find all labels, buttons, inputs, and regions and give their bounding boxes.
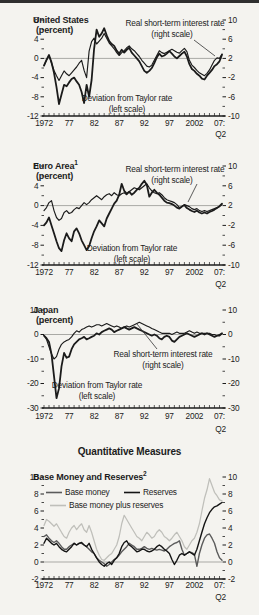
svg-text:82: 82 — [90, 580, 99, 590]
svg-text:8: 8 — [34, 489, 39, 499]
svg-text:97: 97 — [165, 411, 174, 421]
chart-euro-real-rate-label-line1: Real short-term interest rate — [126, 165, 225, 173]
svg-text:-2: -2 — [228, 220, 236, 230]
svg-text:6: 6 — [34, 506, 39, 516]
svg-text:8: 8 — [228, 489, 233, 499]
section-heading: Quantitative Measures — [0, 447, 259, 457]
svg-text:2: 2 — [34, 540, 39, 550]
svg-text:-4: -4 — [32, 72, 40, 82]
chart-japan-units-label: (percent) — [36, 316, 73, 325]
svg-text:4: 4 — [34, 181, 39, 191]
chart-japan-title: Japan — [33, 304, 58, 315]
svg-text:0: 0 — [34, 53, 39, 63]
svg-text:4: 4 — [34, 523, 39, 533]
svg-text:Q2: Q2 — [215, 129, 226, 139]
chart-us-deviation-label-line2: (left scale) — [109, 105, 145, 113]
svg-text:87: 87 — [115, 267, 124, 277]
chart-base-money-title-sup: 2 — [143, 470, 146, 477]
svg-text:-6: -6 — [228, 92, 236, 102]
chart-japan-real-rate-label-line1: Real short-term interest rate — [114, 350, 213, 358]
chart-base-money-title-text: Base Money and Reserves — [33, 472, 143, 482]
chart-euro-title: Euro Area1 — [33, 160, 78, 171]
svg-text:2: 2 — [228, 200, 233, 210]
svg-text:-20: -20 — [228, 378, 240, 388]
svg-text:1972: 1972 — [35, 411, 53, 421]
svg-text:87: 87 — [115, 411, 124, 421]
svg-text:-8: -8 — [32, 92, 40, 102]
svg-text:6: 6 — [228, 34, 233, 44]
legend-label-base-money: Base money — [65, 488, 110, 496]
figure-panel: 840-4-8-121062-2-6-101972778287929720020… — [0, 0, 259, 615]
svg-text:07:: 07: — [214, 118, 225, 128]
chart-us-title-text: United States — [33, 15, 89, 25]
chart-japan-title-text: Japan — [33, 305, 58, 315]
svg-text:0: 0 — [34, 557, 39, 567]
svg-text:92: 92 — [140, 580, 149, 590]
chart-us-deviation-label-line1: Deviation from Taylor rate — [82, 94, 172, 102]
svg-text:-2: -2 — [228, 72, 236, 82]
svg-text:82: 82 — [90, 267, 99, 277]
svg-text:0: 0 — [228, 557, 233, 567]
svg-text:4: 4 — [228, 523, 233, 533]
chart-euro-deviation-label-line2: (left scale) — [114, 255, 150, 263]
svg-text:77: 77 — [65, 580, 74, 590]
svg-text:6: 6 — [228, 181, 233, 191]
svg-text:-10: -10 — [228, 111, 240, 121]
svg-text:10: 10 — [228, 472, 237, 482]
svg-text:-10: -10 — [228, 260, 240, 270]
chart-euro-title-text: Euro Area — [33, 161, 74, 171]
svg-text:-8: -8 — [32, 240, 40, 250]
svg-text:2: 2 — [228, 53, 233, 63]
svg-text:92: 92 — [140, 411, 149, 421]
svg-text:2002: 2002 — [186, 267, 204, 277]
svg-text:92: 92 — [140, 118, 149, 128]
svg-text:2002: 2002 — [186, 411, 204, 421]
svg-text:07:: 07: — [214, 267, 225, 277]
svg-text:77: 77 — [65, 267, 74, 277]
svg-text:82: 82 — [90, 411, 99, 421]
svg-text:-4: -4 — [32, 220, 40, 230]
svg-text:6: 6 — [228, 506, 233, 516]
legend-label-reserves: Reserves — [143, 488, 177, 496]
svg-text:07:: 07: — [214, 411, 225, 421]
svg-text:4: 4 — [34, 34, 39, 44]
svg-text:1972: 1972 — [35, 118, 53, 128]
svg-text:0: 0 — [34, 200, 39, 210]
svg-text:2002: 2002 — [186, 118, 204, 128]
svg-text:82: 82 — [90, 118, 99, 128]
chart-japan-deviation-label-line1: Deviation from Taylor rate — [52, 381, 142, 389]
svg-text:1972: 1972 — [35, 267, 53, 277]
svg-text:77: 77 — [65, 118, 74, 128]
svg-text:1972: 1972 — [35, 580, 53, 590]
svg-text:10: 10 — [228, 15, 237, 25]
svg-text:97: 97 — [165, 267, 174, 277]
svg-text:10: 10 — [228, 161, 237, 171]
chart-japan-real-rate-label-line2: (right scale) — [142, 361, 183, 369]
chart-us-units-label: (percent) — [36, 26, 73, 35]
svg-text:97: 97 — [165, 118, 174, 128]
svg-text:87: 87 — [115, 580, 124, 590]
svg-text:Q2: Q2 — [215, 424, 226, 434]
svg-text:77: 77 — [65, 411, 74, 421]
chart-euro-deviation-label-line1: Deviation from Taylor rate — [87, 244, 177, 252]
chart-japan-deviation-label-line2: (left scale) — [79, 392, 115, 400]
chart-euro-units-label: (percent) — [36, 172, 73, 181]
svg-text:-10: -10 — [27, 354, 39, 364]
svg-text:0: 0 — [228, 329, 233, 339]
svg-text:Q2: Q2 — [215, 592, 226, 602]
chart-us-real-rate-label-line2: (right scale) — [151, 30, 192, 38]
svg-text:07:: 07: — [214, 580, 225, 590]
chart-euro-title-sup: 1 — [74, 159, 77, 166]
svg-text:-6: -6 — [228, 240, 236, 250]
svg-text:-30: -30 — [228, 403, 240, 413]
svg-text:0: 0 — [34, 329, 39, 339]
chart-us-real-rate-label-line1: Real short-term interest rate — [126, 19, 225, 27]
chart-euro-real-rate-label-line2: (right scale) — [151, 176, 192, 184]
svg-text:87: 87 — [115, 118, 124, 128]
svg-text:2002: 2002 — [186, 580, 204, 590]
chart-us-title: United States — [33, 14, 89, 25]
legend-label-base-money-plus-reserves: Base money plus reserves — [69, 501, 163, 509]
svg-text:-2: -2 — [228, 574, 236, 584]
svg-text:97: 97 — [165, 580, 174, 590]
svg-text:10: 10 — [228, 305, 237, 315]
